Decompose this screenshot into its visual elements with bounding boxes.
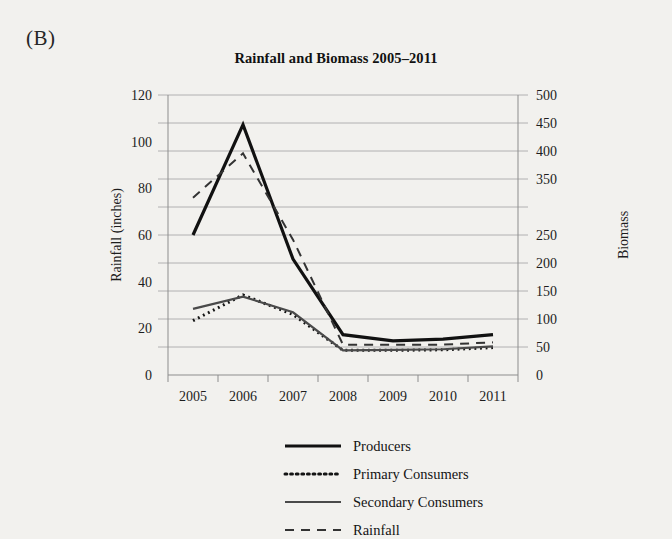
y-axis-left-label: Rainfall (inches) — [109, 188, 125, 282]
x-axis-tick-label: 2007 — [279, 389, 307, 404]
y-axis-right-tick-label: 450 — [536, 116, 557, 131]
chart-figure: (B) Rainfall and Biomass 2005–2011 02040… — [0, 0, 672, 539]
x-axis-tick-label: 2006 — [229, 389, 257, 404]
y-axis-left-tick-label: 100 — [131, 135, 152, 150]
series-line-secondary-consumers — [193, 297, 493, 351]
y-axis-right-tick-label: 0 — [536, 368, 543, 383]
y-axis-right-tick-label: 500 — [536, 88, 557, 103]
legend-label: Producers — [353, 438, 411, 454]
y-axis-left-tick-label: 20 — [138, 321, 152, 336]
legend-label: Secondary Consumers — [353, 494, 483, 510]
y-axis-right-tick-label: 50 — [536, 340, 550, 355]
x-axis-tick-label: 2008 — [329, 389, 357, 404]
series-line-rainfall — [193, 153, 493, 344]
data-series — [193, 125, 493, 351]
y-axis-left-tick-label: 40 — [138, 275, 152, 290]
x-axis-tick-label: 2005 — [179, 389, 207, 404]
y-axis-right-tick-label: 250 — [536, 228, 557, 243]
series-line-primary-consumers — [193, 295, 493, 350]
y-axis-left-title: Rainfall (inches) — [109, 188, 125, 282]
y-axis-right-label: Biomass — [616, 211, 631, 259]
y-axis-left-tick-label: 60 — [138, 228, 152, 243]
y-axis-right-tick-label: 150 — [536, 284, 557, 299]
y-axis-right-tick-label: 200 — [536, 256, 557, 271]
y-axis-right-title: Biomass — [616, 211, 631, 259]
y-axis-left-tick-label: 80 — [138, 181, 152, 196]
y-axis-right-tick-label: 400 — [536, 144, 557, 159]
x-axis-tick-labels: 2005200620072008200920102011 — [179, 389, 507, 404]
line-chart-canvas: 020406080100120 050100150200250350400450… — [0, 0, 672, 539]
legend-label: Primary Consumers — [353, 466, 469, 482]
legend-label: Rainfall — [353, 522, 400, 538]
y-axis-right-tick-label: 100 — [536, 312, 557, 327]
x-axis-tick-label: 2011 — [479, 389, 506, 404]
y-axis-left-tick-label: 0 — [145, 368, 152, 383]
y-axis-right-tick-labels: 050100150200250350400450500 — [536, 88, 557, 383]
series-line-producers — [193, 125, 493, 341]
x-axis-tick-label: 2010 — [429, 389, 457, 404]
x-axis-tick-label: 2009 — [379, 389, 407, 404]
y-axis-right-tick-label: 350 — [536, 172, 557, 187]
chart-legend: ProducersPrimary ConsumersSecondary Cons… — [285, 438, 483, 538]
y-axis-left-tick-labels: 020406080100120 — [131, 88, 152, 383]
axes — [168, 95, 518, 382]
y-axis-left-tick-label: 120 — [131, 88, 152, 103]
